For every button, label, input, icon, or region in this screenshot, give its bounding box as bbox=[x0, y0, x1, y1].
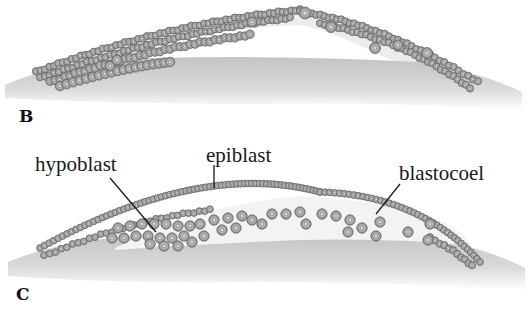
epiblast-label: epiblast bbox=[206, 145, 271, 166]
blastocoel-label: blastocoel bbox=[399, 163, 484, 184]
panel-label-c: C bbox=[16, 284, 30, 304]
panel-b-drawing bbox=[5, 6, 522, 110]
hypoblast-label: hypoblast bbox=[35, 154, 117, 175]
panel-label-b: B bbox=[19, 106, 33, 126]
embryo-cross-section-figure: B C hypoblast epiblast blastocoel bbox=[0, 0, 529, 314]
